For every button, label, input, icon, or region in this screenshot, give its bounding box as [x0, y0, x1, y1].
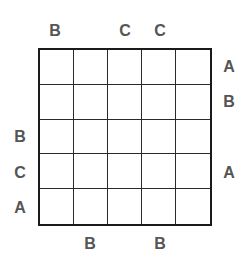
grid-cell-r5c1[interactable] [40, 189, 74, 224]
bottom-clue-4: B [150, 234, 170, 254]
grid-cell-r3c4[interactable] [142, 120, 176, 155]
bottom-clue-5 [185, 234, 205, 254]
right-clue-1: A [219, 57, 239, 77]
puzzle-grid [38, 48, 212, 226]
bottom-clue-1 [45, 234, 65, 254]
top-clue-1: B [45, 21, 65, 41]
left-clue-5: A [10, 198, 30, 218]
grid-cell-r1c1[interactable] [40, 50, 74, 85]
left-clue-1 [10, 56, 30, 76]
bottom-clue-2: B [80, 234, 100, 254]
left-clue-4: C [10, 163, 30, 183]
grid-cell-r2c4[interactable] [142, 85, 176, 120]
top-clue-2 [80, 21, 100, 41]
grid-cell-r2c3[interactable] [108, 85, 142, 120]
grid-cell-r3c2[interactable] [74, 120, 108, 155]
grid-cell-r2c5[interactable] [176, 85, 210, 120]
right-clue-5 [219, 198, 239, 218]
grid-cell-r5c2[interactable] [74, 189, 108, 224]
left-clue-2 [10, 92, 30, 112]
right-clue-2: B [219, 92, 239, 112]
grid-cell-r4c2[interactable] [74, 154, 108, 189]
grid-cell-r5c4[interactable] [142, 189, 176, 224]
grid-cell-r2c1[interactable] [40, 85, 74, 120]
grid-cell-r2c2[interactable] [74, 85, 108, 120]
grid-cell-r4c1[interactable] [40, 154, 74, 189]
right-clue-3 [219, 127, 239, 147]
grid-cell-r4c4[interactable] [142, 154, 176, 189]
bottom-clue-3 [115, 234, 135, 254]
grid-cell-r1c4[interactable] [142, 50, 176, 85]
grid-cell-r1c2[interactable] [74, 50, 108, 85]
grid-cell-r5c3[interactable] [108, 189, 142, 224]
abc-puzzle: B C C B B B C A A B A [0, 0, 251, 264]
grid-cell-r4c3[interactable] [108, 154, 142, 189]
grid-cell-r1c3[interactable] [108, 50, 142, 85]
right-clue-4: A [219, 163, 239, 183]
top-clue-3: C [115, 21, 135, 41]
grid-cell-r3c3[interactable] [108, 120, 142, 155]
top-clue-4: C [150, 21, 170, 41]
left-clue-3: B [10, 127, 30, 147]
grid-cell-r5c5[interactable] [176, 189, 210, 224]
grid-cell-r3c1[interactable] [40, 120, 74, 155]
grid-cell-r1c5[interactable] [176, 50, 210, 85]
grid-cell-r3c5[interactable] [176, 120, 210, 155]
grid-cell-r4c5[interactable] [176, 154, 210, 189]
top-clue-5 [185, 21, 205, 41]
